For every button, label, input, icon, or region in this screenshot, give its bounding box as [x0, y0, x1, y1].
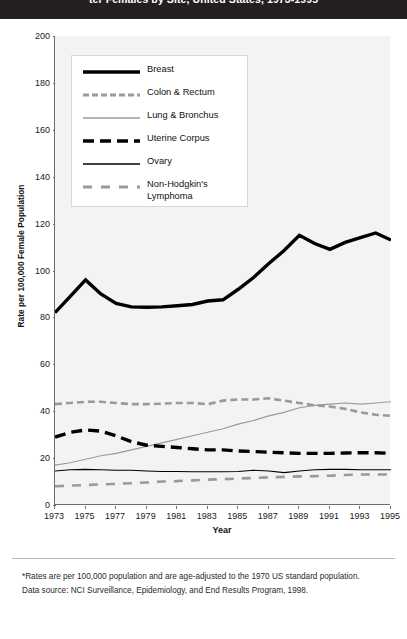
footnote-line: *Rates are per 100,000 population and ar… — [22, 570, 397, 584]
x-tick-mark — [237, 506, 238, 509]
x-tick-label: 1977 — [105, 511, 125, 521]
y-tick-label: 60 — [6, 359, 50, 369]
x-tick-mark — [85, 506, 86, 509]
series-line — [55, 233, 391, 313]
chart-page: ter Females by Site, United States, 1973… — [0, 0, 407, 639]
series-line — [55, 430, 391, 453]
y-tick-label: 100 — [6, 266, 50, 276]
y-tick-label: 140 — [6, 172, 50, 182]
y-tick-label: 80 — [6, 312, 50, 322]
series-line — [55, 469, 391, 472]
legend-swatch-icon — [82, 111, 141, 125]
x-tick-mark — [329, 506, 330, 509]
legend-swatch-icon — [82, 180, 141, 194]
legend-swatch-icon — [82, 65, 141, 79]
title-bar: ter Females by Site, United States, 1973… — [0, 0, 407, 19]
legend-swatch-icon — [82, 157, 141, 171]
y-tick-label: 120 — [6, 219, 50, 229]
legend-label: Colon & Rectum — [141, 87, 215, 99]
legend-label: Lung & Bronchus — [141, 110, 218, 122]
x-tick-label: 1979 — [136, 511, 156, 521]
y-axis-label: Rate per 100,000 Female Population — [16, 161, 26, 351]
x-tick-label: 1985 — [227, 511, 247, 521]
y-tick-label: 40 — [6, 406, 50, 416]
x-tick-label: 1991 — [319, 511, 339, 521]
legend-label: Ovary — [141, 156, 172, 168]
x-axis-ticks: 1973197519771979198119831985198719891991… — [54, 506, 390, 526]
y-tick-label: 180 — [6, 78, 50, 88]
x-tick-label: 1995 — [380, 511, 400, 521]
x-tick-mark — [54, 506, 55, 509]
x-tick-label: 1989 — [288, 511, 308, 521]
series-line — [55, 475, 391, 487]
x-tick-mark — [298, 506, 299, 509]
x-tick-mark — [359, 506, 360, 509]
legend-item: Non-Hodgkin's Lymphoma — [72, 179, 247, 202]
x-tick-mark — [176, 506, 177, 509]
footnote-divider — [12, 558, 395, 559]
chart-area: 020406080100120140160180200 Rate per 100… — [0, 19, 407, 555]
x-tick-mark — [115, 506, 116, 509]
page-title: ter Females by Site, United States, 1973… — [0, 0, 407, 6]
y-tick-label: 160 — [6, 125, 50, 135]
legend-label: Non-Hodgkin's Lymphoma — [141, 179, 208, 202]
x-tick-label: 1993 — [349, 511, 369, 521]
x-tick-label: 1983 — [197, 511, 217, 521]
legend: BreastColon & RectumLung & BronchusUteri… — [71, 55, 248, 207]
footnote-line: Data source: NCI Surveillance, Epidemiol… — [22, 584, 397, 598]
legend-item: Breast — [72, 64, 247, 87]
x-tick-mark — [207, 506, 208, 509]
y-tick-label: 20 — [6, 453, 50, 463]
x-tick-label: 1975 — [75, 511, 95, 521]
x-tick-mark — [146, 506, 147, 509]
legend-swatch-icon — [82, 88, 141, 102]
x-tick-label: 1973 — [44, 511, 64, 521]
legend-swatch-icon — [82, 134, 141, 148]
legend-item: Ovary — [72, 156, 247, 179]
x-tick-label: 1987 — [258, 511, 278, 521]
footnotes: *Rates are per 100,000 population and ar… — [22, 570, 397, 598]
x-axis-label: Year — [54, 525, 390, 535]
y-tick-label: 0 — [6, 500, 50, 510]
x-tick-label: 1981 — [166, 511, 186, 521]
legend-item: Lung & Bronchus — [72, 110, 247, 133]
y-tick-label: 200 — [6, 31, 50, 41]
x-tick-mark — [390, 506, 391, 509]
legend-label: Breast — [141, 64, 174, 76]
legend-item: Colon & Rectum — [72, 87, 247, 110]
x-tick-mark — [268, 506, 269, 509]
series-line — [55, 398, 391, 416]
legend-label: Uterine Corpus — [141, 133, 210, 145]
legend-item: Uterine Corpus — [72, 133, 247, 156]
